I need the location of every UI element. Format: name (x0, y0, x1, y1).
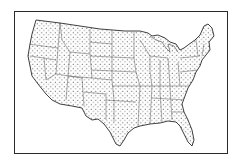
dot-fill (20, 15, 220, 150)
us-dot-map (0, 0, 242, 167)
